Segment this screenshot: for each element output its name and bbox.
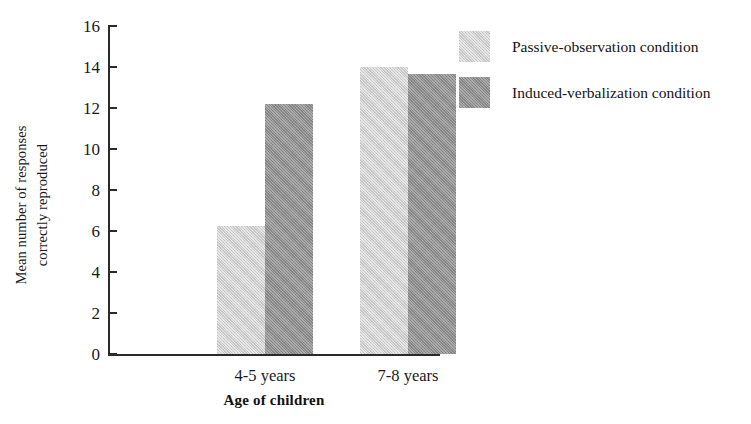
y-axis-tick-label: 2 <box>92 305 101 322</box>
chart-legend: Passive-observation conditionInduced-ver… <box>459 31 744 123</box>
y-axis-tick-label: 12 <box>83 100 100 117</box>
y-axis-title-line-2: correctly reproduced <box>32 125 53 284</box>
bar-chart-figure: Mean number of responses correctly repro… <box>0 0 751 424</box>
y-axis-tick-label: 6 <box>92 223 101 240</box>
y-axis-tick-mark <box>108 107 117 109</box>
y-axis-tick-mark <box>108 353 117 355</box>
legend-label: Passive-observation condition <box>512 38 698 56</box>
y-axis-tick-label: 8 <box>92 182 101 199</box>
y-axis-tick-label: 14 <box>83 59 100 76</box>
y-axis-title: Mean number of responses correctly repro… <box>8 55 56 355</box>
x-axis-title: Age of children <box>108 392 440 409</box>
x-axis-line <box>108 354 440 356</box>
y-axis-tick-mark <box>108 189 117 191</box>
bar <box>217 226 265 354</box>
bar <box>408 74 456 354</box>
bar <box>265 104 313 354</box>
x-axis-category-label: 4-5 years <box>235 366 296 386</box>
legend-item: Induced-verbalization condition <box>459 77 744 108</box>
y-axis-tick-mark <box>108 148 117 150</box>
legend-label: Induced-verbalization condition <box>512 84 710 102</box>
x-axis-category-label: 7-8 years <box>378 366 439 386</box>
y-axis-tick-mark <box>108 25 117 27</box>
y-axis-tick-mark <box>108 66 117 68</box>
y-axis-tick-label: 0 <box>92 346 101 363</box>
y-axis-tick-label: 10 <box>83 141 100 158</box>
y-axis-tick-mark <box>108 271 117 273</box>
y-axis-tick-label: 4 <box>92 264 101 281</box>
y-axis-tick-label: 16 <box>83 18 100 35</box>
y-axis-title-line-1: Mean number of responses <box>11 125 32 284</box>
legend-swatch-dark <box>459 77 490 108</box>
legend-item: Passive-observation condition <box>459 31 744 62</box>
bar <box>360 67 408 354</box>
legend-swatch-light <box>459 31 490 62</box>
y-axis-tick-mark <box>108 230 117 232</box>
y-axis-tick-mark <box>108 312 117 314</box>
plot-area: 0246810121416 4-5 years7-8 years <box>108 26 440 354</box>
